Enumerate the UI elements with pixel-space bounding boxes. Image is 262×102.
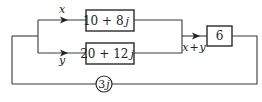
block-top: 10 + 8j — [83, 10, 134, 31]
sum-x: x — [182, 41, 189, 54]
svg-text:10 + 8j: 10 + 8j — [83, 14, 130, 28]
feedback-label: 3 — [98, 78, 105, 91]
sum-y: y — [199, 41, 207, 54]
block-gain-label: 6 — [216, 29, 224, 43]
signal-x-label: x — [59, 3, 66, 16]
block-top-label: 10 + 8 — [83, 14, 124, 28]
svg-text:20 + 12j: 20 + 12j — [80, 47, 134, 61]
sum-plus: + — [189, 41, 198, 54]
signal-sum-label: x+y — [182, 41, 206, 54]
svg-text:3j: 3j — [98, 78, 110, 91]
signal-y-label: y — [58, 54, 66, 67]
top-output-wire — [134, 20, 182, 53]
block-diagram: 10 + 8j 20 + 12j 6 3j x y x+y — [0, 0, 262, 102]
block-gain: 6 — [207, 26, 232, 46]
block-bottom-label: 20 + 12 — [80, 47, 128, 61]
block-bottom: 20 + 12j — [80, 43, 134, 64]
feedback-node: 3j — [96, 76, 112, 92]
